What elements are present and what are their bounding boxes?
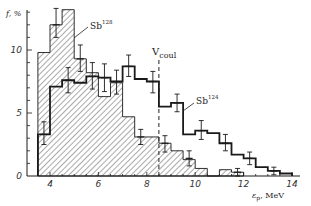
- y-tick-label: 0: [16, 171, 22, 181]
- y-axis-label: f, %: [5, 9, 22, 18]
- y-tick-label: 10: [11, 45, 23, 55]
- histogram-chart: 0510468101214 f, % Vcoul Sb128 Sb124 εp,…: [0, 0, 311, 206]
- sb128-histogram: [38, 8, 244, 176]
- sb128-leader-line: [74, 27, 88, 38]
- sb128-label: Sb128: [90, 19, 113, 31]
- x-tick-label: 6: [96, 179, 102, 189]
- sb124-label: Sb124: [196, 94, 219, 106]
- sb124-leader-line: [183, 103, 194, 111]
- x-tick-label: 14: [286, 179, 298, 189]
- x-tick-label: 8: [144, 179, 150, 189]
- x-tick-label: 12: [238, 179, 250, 189]
- vcoul-label: Vcoul: [151, 46, 177, 60]
- x-tick-label: 4: [47, 179, 53, 189]
- y-tick-label: 5: [16, 108, 22, 118]
- x-tick-label: 10: [189, 179, 201, 189]
- x-axis-label: εp, MeV: [252, 191, 284, 202]
